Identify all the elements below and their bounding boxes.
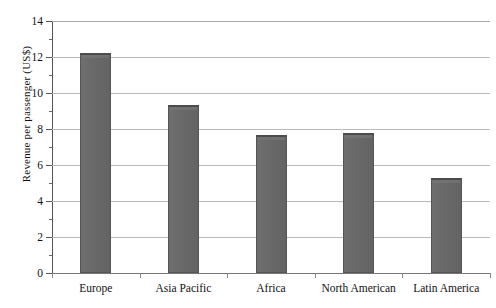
x-axis-line bbox=[52, 273, 490, 274]
bar-africa bbox=[256, 135, 287, 273]
gridline bbox=[52, 57, 490, 58]
y-minor-tick-mark bbox=[49, 183, 52, 184]
y-tick-label: 14 bbox=[32, 15, 44, 27]
y-tick-mark bbox=[46, 237, 52, 238]
bar-chart-figure: Revenue per passenger (US$) 02468101214E… bbox=[0, 0, 496, 308]
x-tick-mark bbox=[490, 273, 491, 278]
bar-asia-pacific bbox=[168, 105, 199, 273]
bar-north-american bbox=[343, 133, 374, 273]
bar-latin-america bbox=[431, 178, 462, 273]
gridline bbox=[52, 93, 490, 94]
y-tick-mark bbox=[46, 165, 52, 166]
y-tick-label: 0 bbox=[37, 267, 43, 279]
bar-europe bbox=[80, 53, 111, 274]
gridline bbox=[52, 129, 490, 130]
y-tick-mark bbox=[46, 21, 52, 22]
x-tick-mark bbox=[315, 273, 316, 278]
y-tick-mark bbox=[46, 129, 52, 130]
y-tick-label: 2 bbox=[37, 231, 43, 243]
plot-area: 02468101214EuropeAsia PacificAfricaNorth… bbox=[52, 21, 490, 273]
y-minor-tick-mark bbox=[49, 111, 52, 112]
y-minor-tick-mark bbox=[49, 39, 52, 40]
x-tick-label-latin-america: Latin America bbox=[413, 282, 479, 294]
y-minor-tick-mark bbox=[49, 255, 52, 256]
x-tick-mark bbox=[52, 273, 53, 278]
y-tick-mark bbox=[46, 201, 52, 202]
y-minor-tick-mark bbox=[49, 219, 52, 220]
y-tick-label: 10 bbox=[32, 87, 44, 99]
y-tick-mark bbox=[46, 93, 52, 94]
x-tick-label-europe: Europe bbox=[79, 282, 112, 294]
y-tick-mark bbox=[46, 57, 52, 58]
y-tick-label: 6 bbox=[37, 159, 43, 171]
y-minor-tick-mark bbox=[49, 147, 52, 148]
y-tick-label: 8 bbox=[37, 123, 43, 135]
x-tick-label-africa: Africa bbox=[256, 282, 285, 294]
y-axis-line bbox=[52, 21, 53, 273]
x-tick-mark bbox=[140, 273, 141, 278]
x-tick-mark bbox=[227, 273, 228, 278]
y-axis-title: Revenue per passenger (US$) bbox=[20, 14, 32, 214]
y-tick-label: 12 bbox=[32, 51, 44, 63]
x-tick-mark bbox=[402, 273, 403, 278]
gridline bbox=[52, 21, 490, 22]
y-tick-label: 4 bbox=[37, 195, 43, 207]
x-tick-label-asia-pacific: Asia Pacific bbox=[155, 282, 211, 294]
y-minor-tick-mark bbox=[49, 75, 52, 76]
x-tick-label-north-american: North American bbox=[321, 282, 395, 294]
